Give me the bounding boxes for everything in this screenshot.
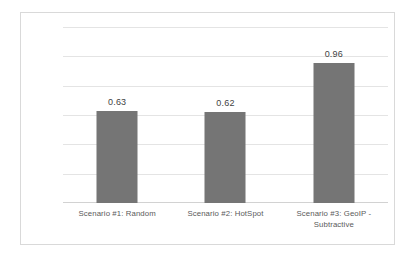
bar-value-scenario-2: 0.62 — [216, 99, 234, 108]
bar-chart-figure: 1.2 1 0.8 0.6 0.4 0.2 0 0.63 0.62 0.96 — [0, 0, 413, 259]
x-label-scenario-3-line2: Subtractive — [314, 220, 354, 229]
bar-scenario-3[interactable] — [313, 63, 354, 203]
x-label-scenario-2-line1: Scenario #2: HotSpot — [187, 209, 263, 218]
bar-slot-scenario-2: 0.62 — [171, 27, 279, 203]
bar-scenario-2[interactable] — [205, 112, 246, 203]
bar-value-scenario-1: 0.63 — [108, 98, 126, 107]
x-label-scenario-2: Scenario #2: HotSpot — [171, 208, 279, 219]
x-label-scenario-1-line1: Scenario #1: Random — [79, 209, 156, 218]
x-label-scenario-3: Scenario #3: GeoIP - Subtractive — [280, 208, 388, 230]
bar-scenario-1[interactable] — [97, 111, 138, 203]
bar-value-scenario-3: 0.96 — [325, 50, 343, 59]
bar-slot-scenario-3: 0.96 — [280, 27, 388, 203]
x-label-scenario-3-line1: Scenario #3: GeoIP - — [296, 209, 371, 218]
x-label-scenario-1: Scenario #1: Random — [63, 208, 171, 219]
bar-slot-scenario-1: 0.63 — [63, 27, 171, 203]
plot-area: 0.63 0.62 0.96 — [63, 27, 388, 203]
